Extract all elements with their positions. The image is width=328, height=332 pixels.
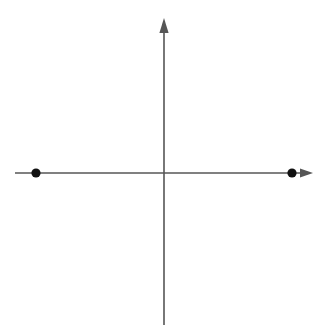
data-point-marker	[31, 168, 40, 177]
coordinate-axes-figure	[0, 0, 328, 332]
data-point-marker	[287, 168, 296, 177]
axes-canvas	[0, 0, 328, 332]
